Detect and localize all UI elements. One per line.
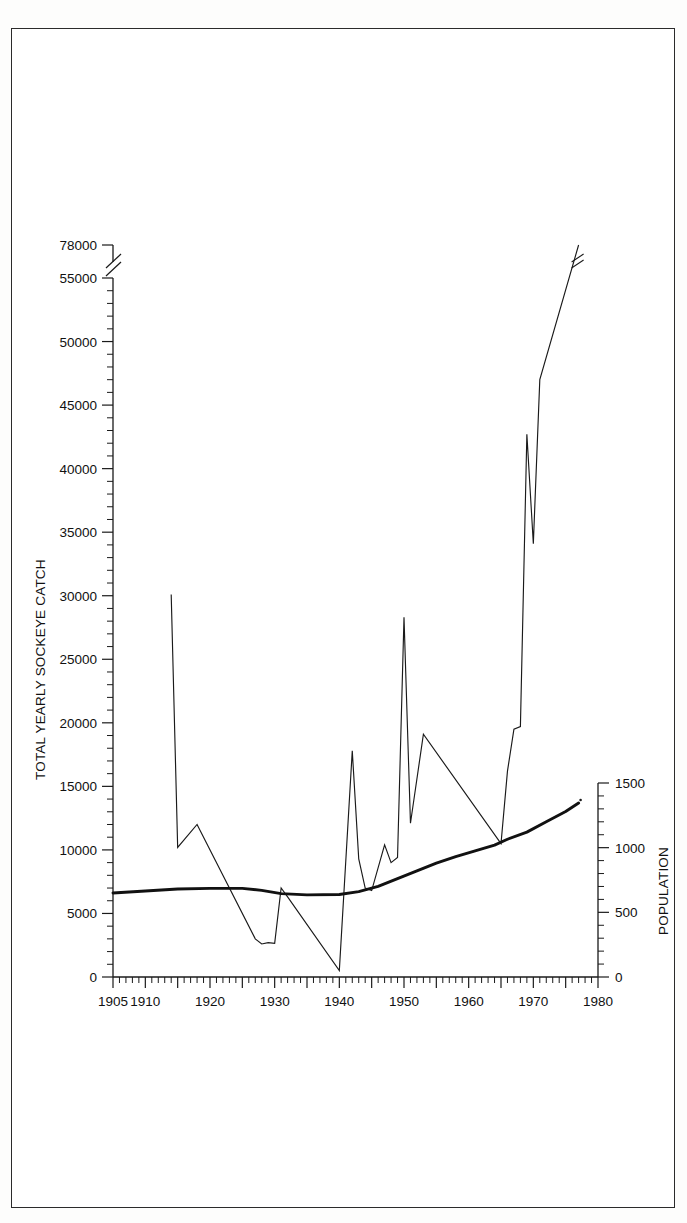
axis-tick-label: 5000	[67, 906, 97, 921]
series-break-marker-icon	[572, 254, 584, 268]
axis-tick-label: 1940	[324, 994, 354, 1009]
axis-right-tick-labels: 050010001500	[615, 776, 645, 985]
axis-tick-label: 0	[89, 970, 97, 985]
axis-bottom-ticks	[113, 977, 598, 988]
axis-tick-label: 25000	[59, 652, 97, 667]
axis-tick-label: 1970	[518, 994, 548, 1009]
axis-bottom-tick-labels: 190519101920193019401950196019701980	[98, 994, 613, 1009]
page-canvas: 0500010000150002000025000300003500040000…	[0, 0, 687, 1223]
axis-tick-label: 1930	[260, 994, 290, 1009]
axis-left-ticks	[102, 245, 113, 977]
axis-tick-label: 1920	[195, 994, 225, 1009]
axis-tick-label: 45000	[59, 398, 97, 413]
axis-right-ticks	[598, 783, 609, 977]
axis-tick-label: 35000	[59, 525, 97, 540]
axis-tick-label: 0	[615, 970, 623, 985]
axis-tick-label: 1500	[615, 776, 645, 791]
axis-left	[106, 245, 121, 977]
axis-tick-label: 30000	[59, 589, 97, 604]
series-line-population	[113, 803, 579, 895]
axis-tick-label: 15000	[59, 779, 97, 794]
axis-tick-label: 50000	[59, 335, 97, 350]
axis-tick-label: 1960	[454, 994, 484, 1009]
axis-tick-label: 78000	[59, 238, 97, 253]
axis-tick-label: 1000	[615, 841, 645, 856]
axis-left-tick-labels: 0500010000150002000025000300003500040000…	[59, 238, 97, 985]
chart-figure: 0500010000150002000025000300003500040000…	[0, 0, 687, 1223]
axis-tick-label: 40000	[59, 462, 97, 477]
axis-tick-label: 1950	[389, 994, 419, 1009]
axis-tick-label: 1910	[130, 994, 160, 1009]
axis-tick-label: 55000	[59, 271, 97, 286]
axis-tick-label: 1980	[583, 994, 613, 1009]
series-group	[113, 245, 584, 971]
axis-tick-label: 20000	[59, 716, 97, 731]
axis-tick-label: 500	[615, 905, 638, 920]
series-line-total-yearly-sockeye-catch	[171, 245, 578, 971]
y-axis-right-title: POPULATION	[656, 847, 671, 935]
axis-tick-label: 1905	[98, 994, 128, 1009]
axis-tick-label: 10000	[59, 843, 97, 858]
y-axis-left-title: TOTAL YEARLY SOCKEYE CATCH	[33, 559, 48, 780]
population-endpoint-marker	[579, 799, 582, 802]
